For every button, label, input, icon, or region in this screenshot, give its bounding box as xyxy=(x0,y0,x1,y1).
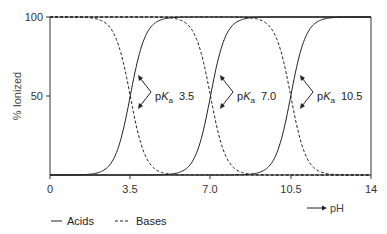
svg-text:pKa10.5: pKa10.5 xyxy=(317,90,362,105)
y-axis-title: % Ionized xyxy=(11,72,23,120)
bracket-arrow-icon xyxy=(140,78,151,106)
legend-bases-label: Bases xyxy=(136,215,167,227)
pka-annotation-7.0: pKa7.0 xyxy=(220,75,276,109)
x-axis-title: pH xyxy=(330,202,344,214)
y-tick-100: 100 xyxy=(25,11,43,23)
x-tick-7.0: 7.0 xyxy=(202,183,217,195)
arrowhead-icon xyxy=(322,206,327,211)
svg-text:pKa7.0: pKa7.0 xyxy=(237,90,276,105)
pka-annotation-10.5: pKa10.5 xyxy=(300,75,362,109)
x-tick-10.5: 10.5 xyxy=(280,183,301,195)
pka-annotation-3.5: pKa3.5 xyxy=(138,75,194,109)
legend: Acids Bases xyxy=(51,215,167,227)
legend-acids-label: Acids xyxy=(67,215,94,227)
y-tick-50: 50 xyxy=(31,90,43,102)
svg-text:pKa3.5: pKa3.5 xyxy=(155,90,194,105)
bracket-arrow-icon xyxy=(222,78,233,106)
ionization-chart: 100 50 0 3.5 7.0 10.5 14 % Ionized pH pK… xyxy=(0,0,387,234)
x-tick-3.5: 3.5 xyxy=(122,183,137,195)
bracket-arrow-icon xyxy=(302,78,313,106)
x-axis-title-group: pH xyxy=(307,202,344,214)
x-tick-14: 14 xyxy=(365,183,377,195)
x-tick-0: 0 xyxy=(47,183,53,195)
